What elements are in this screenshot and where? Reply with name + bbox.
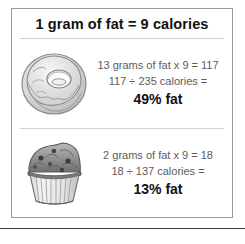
bottom-rule [0, 228, 245, 229]
calc-line-2: 18 ÷ 137 calories = [111, 164, 204, 178]
calc-line-1: 2 grams of fat x 9 = 18 [103, 148, 213, 162]
box-title: 1 gram of fat = 9 calories [12, 9, 232, 38]
calc-result: 13% fat [133, 181, 182, 198]
donut-icon [16, 45, 92, 121]
food-row: 13 grams of fat x 9 = 117 117 ÷ 235 calo… [12, 39, 232, 128]
food-row: 2 grams of fat x 9 = 18 18 ÷ 137 calorie… [12, 129, 232, 218]
calc-line-1: 13 grams of fat x 9 = 117 [97, 58, 218, 72]
page-root: 1 gram of fat = 9 calories [0, 0, 245, 244]
calculation-block: 13 grams of fat x 9 = 117 117 ÷ 235 calo… [92, 58, 226, 108]
calculation-block: 2 grams of fat x 9 = 18 18 ÷ 137 calorie… [92, 148, 226, 198]
fat-calorie-fact-box: 1 gram of fat = 9 calories [11, 8, 233, 218]
calc-line-2: 117 ÷ 235 calories = [109, 74, 207, 88]
calc-result: 49% fat [133, 91, 182, 108]
muffin-icon [16, 135, 92, 211]
